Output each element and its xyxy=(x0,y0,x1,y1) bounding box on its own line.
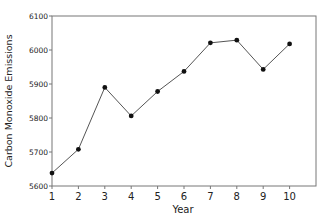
x-tick-label: 5 xyxy=(154,191,160,202)
y-tick-label: 5900 xyxy=(29,80,48,89)
x-axis: 12345678910 xyxy=(49,186,296,202)
data-point xyxy=(76,147,81,152)
x-axis-label: Year xyxy=(171,204,194,215)
data-point xyxy=(234,38,239,43)
data-point xyxy=(155,89,160,94)
x-tick-label: 4 xyxy=(128,191,134,202)
x-tick-label: 10 xyxy=(283,191,296,202)
x-tick-label: 7 xyxy=(207,191,213,202)
y-axis-label: Carbon Monoxide Emissions xyxy=(3,34,14,167)
y-tick-label: 5700 xyxy=(29,148,48,157)
data-point xyxy=(102,85,107,90)
data-point xyxy=(287,41,292,46)
x-tick-label: 6 xyxy=(181,191,187,202)
y-tick-label: 6100 xyxy=(29,12,48,21)
data-point xyxy=(261,67,266,72)
data-point xyxy=(208,40,213,45)
y-axis: 560057005800590060006100 xyxy=(29,12,52,191)
x-tick-label: 1 xyxy=(49,191,55,202)
x-tick-label: 8 xyxy=(234,191,240,202)
line-chart: 560057005800590060006100 12345678910 Yea… xyxy=(0,0,332,221)
y-tick-label: 5600 xyxy=(29,182,48,191)
data-point xyxy=(50,171,55,176)
data-point xyxy=(182,69,187,74)
x-tick-label: 9 xyxy=(260,191,266,202)
x-tick-label: 2 xyxy=(75,191,81,202)
x-tick-label: 3 xyxy=(102,191,108,202)
data-point xyxy=(129,114,134,119)
y-tick-label: 6000 xyxy=(29,46,48,55)
y-tick-label: 5800 xyxy=(29,114,48,123)
plot-area xyxy=(52,16,316,186)
